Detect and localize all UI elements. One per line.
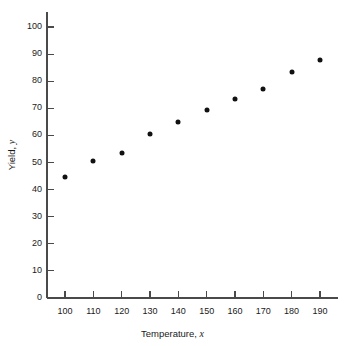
x-tick-label: 190 [300, 307, 340, 316]
data-point [119, 151, 124, 156]
data-point [204, 107, 209, 112]
y-tick-label: 0 [4, 293, 42, 302]
y-tick-label: 70 [4, 103, 42, 112]
y-tick-label: 30 [4, 212, 42, 221]
data-point [147, 132, 152, 137]
y-axis-title-text: Yield, [6, 147, 17, 170]
plot-canvas [0, 0, 345, 346]
y-tick-label: 40 [4, 185, 42, 194]
y-tick-label: 10 [4, 266, 42, 275]
y-tick-label: 20 [4, 239, 42, 248]
y-axis-title: Yield, y [7, 125, 17, 185]
data-point [289, 69, 294, 74]
y-tick-label: 100 [4, 22, 42, 31]
y-axis-title-variable: y [6, 140, 17, 144]
data-point [317, 57, 322, 62]
y-tick-label: 80 [4, 76, 42, 85]
data-point [232, 96, 237, 101]
data-point [63, 175, 68, 180]
x-axis-title-variable: x [200, 328, 204, 339]
x-axis-title-text: Temperature, [141, 328, 197, 339]
scatter-plot-figure: 0102030405060708090100100110120130140150… [0, 0, 345, 346]
data-point [261, 87, 266, 92]
data-point [91, 159, 96, 164]
data-point [176, 119, 181, 124]
y-tick-label: 90 [4, 49, 42, 58]
x-axis-title: Temperature, x [0, 329, 345, 339]
